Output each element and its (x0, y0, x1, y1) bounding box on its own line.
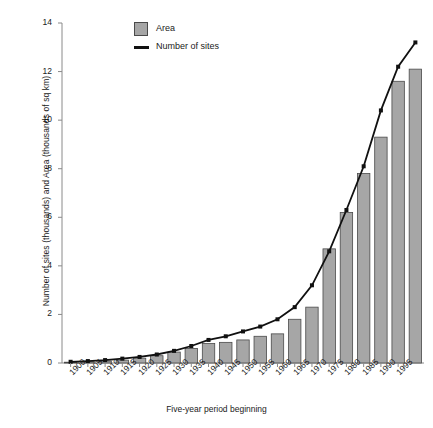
line-marker (396, 65, 400, 69)
bar-1955 (254, 336, 266, 363)
legend-area-label: Area (156, 23, 175, 33)
line-marker (327, 249, 331, 253)
y-tick-label: 0 (30, 358, 52, 367)
y-tick-label: 2 (30, 309, 52, 318)
y-tick-label: 14 (30, 18, 52, 27)
line-marker (103, 358, 107, 362)
line-marker (172, 349, 176, 353)
line-marker (138, 355, 142, 359)
line-marker (344, 208, 348, 212)
bar-1980 (340, 212, 352, 363)
y-tick-label: 4 (30, 261, 52, 270)
legend-area-swatch-icon (134, 22, 148, 36)
bar-1975 (323, 249, 335, 363)
line-marker (241, 329, 245, 333)
chart-figure: Number of sites (thousands) and Area (th… (0, 0, 433, 428)
line-marker (275, 317, 279, 321)
line-marker (379, 108, 383, 112)
line-marker (293, 305, 297, 309)
line-marker (207, 338, 211, 342)
bar-1990 (375, 137, 387, 363)
line-marker (120, 357, 124, 361)
line-marker (310, 283, 314, 287)
legend-sites-line-icon (134, 46, 149, 49)
line-marker (413, 40, 417, 44)
line-marker (258, 325, 262, 329)
y-tick-label: 8 (30, 164, 52, 173)
bar-1960 (271, 334, 283, 363)
bar-1970 (306, 307, 318, 363)
bar-final (409, 69, 421, 363)
legend-sites-label: Number of sites (156, 41, 219, 51)
bar-1995 (392, 81, 404, 363)
line-marker (224, 334, 228, 338)
y-tick-label: 6 (30, 212, 52, 221)
bar-1965 (289, 319, 301, 363)
line-marker (189, 344, 193, 348)
line-marker (155, 353, 159, 357)
y-tick-label: 10 (30, 115, 52, 124)
y-tick-label: 12 (30, 67, 52, 76)
bar-1985 (357, 174, 369, 363)
line-marker (362, 164, 366, 168)
